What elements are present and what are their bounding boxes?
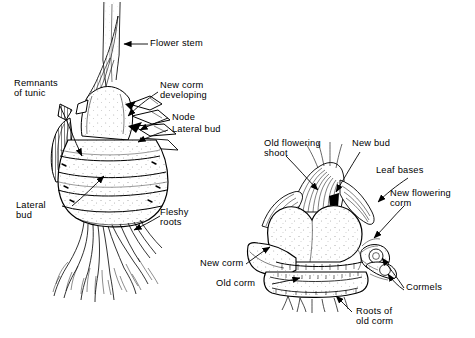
label-cormels: Cormels [406,282,442,292]
label-lateral-bud-lower: Lateral bud [16,200,46,221]
diagram-canvas: Flower stem Remnants of tunic New corm d… [0,0,475,338]
fleshy-roots-shape [53,220,162,302]
label-new-corm: New corm [200,258,243,268]
label-leaf-bases: Leaf bases [376,165,424,175]
label-roots-of-old-corm: Roots of old corm [356,306,393,327]
old-corm-body-shape [58,140,168,227]
label-lateral-bud-upper: Lateral bud [172,124,221,134]
label-remnants-of-tunic: Remnants of tunic [14,78,58,99]
label-new-bud: New bud [352,138,390,148]
right-corm-illustration [248,142,397,313]
label-flower-stem: Flower stem [150,38,203,48]
label-new-corm-developing: New corm developing [160,80,207,101]
leader-roots-of-old-corm [336,296,352,312]
label-old-flowering-shoot: Old flowering shoot [264,138,321,159]
label-new-flowering-corm: New flowering corm [390,188,451,209]
label-node: Node [172,112,195,122]
label-fleshy-roots: Fleshy roots [160,207,189,228]
label-old-corm: Old corm [216,278,255,288]
leader-new-flowering-corm [374,206,404,238]
